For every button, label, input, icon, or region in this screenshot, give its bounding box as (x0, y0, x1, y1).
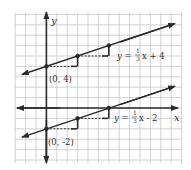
eq-upper-den: 3 (136, 55, 140, 62)
eq-upper-prefix: y = (116, 51, 132, 61)
eq-upper-num: 1 (136, 47, 140, 54)
intercept-label-lower: (0, -2) (48, 137, 74, 147)
line-upper-right (120, 24, 175, 42)
eq-lower-prefix: y = (113, 113, 129, 123)
eq-lower-den: 3 (133, 117, 137, 124)
intercept-label-upper: (0, 4) (49, 74, 72, 84)
eq-lower-num: 1 (133, 109, 137, 116)
y-axis-label: y (50, 15, 57, 26)
line-lower-right (120, 86, 175, 104)
eq-lower-suffix: x - 2 (139, 113, 157, 123)
grid (15, 13, 182, 163)
graph: y x y = 1 3 x + 4 (0, 4) y = 1 (0, 0, 191, 170)
x-axis-label: x (174, 112, 180, 123)
eq-upper-suffix: x + 4 (142, 51, 165, 61)
equation-lower: y = 1 3 x - 2 (113, 109, 157, 124)
